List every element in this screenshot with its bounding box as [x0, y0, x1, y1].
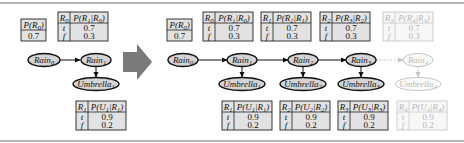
cpt-value: 0.2	[363, 120, 374, 130]
node-umbrella-4: Umbrella4	[395, 78, 441, 91]
node-label: Umbrella1	[77, 79, 114, 90]
cpt-value: 0.3	[345, 31, 357, 41]
node-umbrella-2: Umbrella2	[280, 78, 326, 91]
prior-table: P(R0)0.7	[21, 19, 46, 41]
node-label: Umbrella2	[284, 79, 322, 90]
right-arrow-icon	[123, 44, 152, 80]
node-umbrella-1: Umbrella1	[73, 78, 119, 91]
cpt-value: 0.3	[83, 31, 95, 41]
node-rain-2: Rain2	[288, 54, 318, 67]
prior-value: 0.7	[174, 31, 186, 41]
prior-table: P(R0)0.7	[167, 19, 192, 41]
transition-table-1: R1P(R2|R1)t0.7f0.3	[261, 12, 311, 41]
sensor-table-2: R2P(U2|R2)t0.9f0.2	[280, 101, 330, 130]
sensor-table-1: R1P(U1|R1)t0.9f0.2	[222, 101, 272, 130]
node-rain-1: Rain1	[81, 54, 111, 67]
prior-header: P(R0)	[22, 20, 43, 31]
prior-header: P(R0)	[168, 20, 189, 31]
dbn-unrolling-diagram: P(R0)0.7R0P(R1|R0)t0.7f0.3Rain0Rain1Umbr…	[0, 0, 464, 143]
node-label: Umbrella1	[223, 79, 260, 90]
sensor-table: R1P(U1|R1)t0.9f0.2	[76, 101, 126, 130]
cpt-value: 0.3	[408, 31, 420, 41]
cpt-value: 0.2	[101, 120, 112, 130]
node-rain-1: Rain1	[227, 54, 257, 67]
sensor-table-3: R3P(U3|R3)t0.9f0.2	[338, 101, 388, 130]
node-label: Umbrella4	[399, 79, 437, 90]
cpt-value: 0.2	[422, 120, 433, 130]
node-rain-3: Rain3	[346, 54, 376, 67]
transition-table-3: R3P(R4|R3)t0.7f0.3	[383, 12, 433, 41]
prior-value: 0.7	[28, 31, 40, 41]
transition-table-0: R0P(R1|R0)t0.7f0.3	[203, 12, 253, 41]
node-rain-0: Rain0	[28, 54, 60, 67]
cpt-value: 0.2	[305, 120, 316, 130]
node-rain-4: Rain4	[403, 54, 433, 67]
cpt-value: 0.3	[228, 31, 240, 41]
transition-table: R0P(R1|R0)t0.7f0.3	[58, 12, 108, 41]
left-panel-network: P(R0)0.7R0P(R1|R0)t0.7f0.3Rain0Rain1Umbr…	[21, 12, 126, 130]
node-umbrella-1: Umbrella1	[219, 78, 265, 91]
node-label: Umbrella3	[342, 79, 380, 90]
cpt-value: 0.2	[247, 120, 258, 130]
right-panel-unrolled-network: P(R0)0.7R0P(R1|R0)t0.7f0.3R1P(R2|R1)t0.7…	[167, 12, 447, 130]
node-umbrella-3: Umbrella3	[338, 78, 384, 91]
cpt-value: 0.3	[286, 31, 298, 41]
transition-table-2: R2P(R3|R2)t0.7f0.3	[320, 12, 370, 41]
sensor-table-4: R4P(U4|R4)t0.9f0.2	[397, 101, 447, 130]
node-rain-0: Rain0	[168, 54, 198, 67]
